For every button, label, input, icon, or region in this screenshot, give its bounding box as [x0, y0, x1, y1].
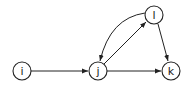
- node-j: j: [89, 62, 107, 80]
- node-k: k: [162, 62, 180, 80]
- node-label: l: [152, 9, 155, 22]
- node-label: k: [168, 65, 175, 78]
- node-label: j: [95, 65, 99, 78]
- edge-l-j: [100, 13, 145, 61]
- edge-l-k: [158, 24, 168, 61]
- node-i: i: [13, 62, 31, 80]
- node-label: i: [20, 65, 23, 78]
- node-l: l: [145, 6, 163, 24]
- edge-j-l: [104, 22, 146, 64]
- graph-canvas: i j k l: [0, 0, 196, 89]
